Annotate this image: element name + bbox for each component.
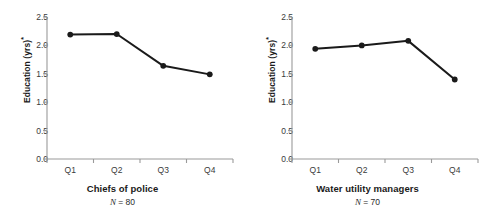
data-point-marker bbox=[405, 38, 411, 44]
x-axis-tick-label: Q4 bbox=[449, 166, 460, 175]
x-axis-tick-label: Q1 bbox=[310, 166, 321, 175]
x-axis-tick-label: Q3 bbox=[158, 166, 169, 175]
data-point-marker bbox=[359, 43, 365, 49]
panel-title: Chiefs of police bbox=[0, 184, 245, 194]
data-point-marker bbox=[207, 71, 213, 77]
two-panel-line-chart-figure: Education (yrs)* 0.00.51.01.52.02.5 Q1Q2… bbox=[0, 0, 491, 221]
x-axis-tick-label: Q2 bbox=[356, 166, 367, 175]
data-point-marker bbox=[160, 63, 166, 69]
chart-panel-water-utility-managers: Education (yrs)* 0.00.51.01.52.02.5 Q1Q2… bbox=[245, 0, 490, 221]
data-point-marker bbox=[114, 31, 120, 37]
panel-title: Water utility managers bbox=[245, 184, 490, 194]
sample-size-value: = 80 bbox=[116, 197, 135, 207]
panel-sample-size: N = 80 bbox=[0, 198, 245, 207]
series-line bbox=[315, 41, 455, 80]
x-axis-tick-label: Q2 bbox=[111, 166, 122, 175]
x-axis-tick-labels: Q1Q2Q3Q4 bbox=[245, 166, 490, 180]
x-axis-tick-label: Q1 bbox=[65, 166, 76, 175]
x-axis-tick-label: Q4 bbox=[204, 166, 215, 175]
chart-panel-chiefs-of-police: Education (yrs)* 0.00.51.01.52.02.5 Q1Q2… bbox=[0, 0, 245, 221]
x-axis-tick-labels: Q1Q2Q3Q4 bbox=[0, 166, 245, 180]
data-point-marker bbox=[67, 32, 73, 38]
x-axis-tick-label: Q3 bbox=[403, 166, 414, 175]
data-point-marker bbox=[312, 46, 318, 52]
sample-size-value: = 70 bbox=[361, 197, 380, 207]
panel-sample-size: N = 70 bbox=[245, 198, 490, 207]
data-point-marker bbox=[452, 77, 458, 83]
series-line bbox=[70, 34, 210, 74]
